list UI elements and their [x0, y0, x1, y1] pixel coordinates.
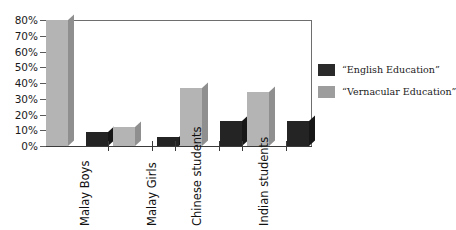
x-axis-label: Chinese students — [190, 126, 204, 226]
x-axis-label: Malay Girls — [145, 162, 159, 226]
x-tick-mark — [286, 141, 287, 151]
bar-vernacular-malay-boys — [46, 20, 68, 146]
bar-english-malay-boys — [86, 132, 108, 146]
x-tick-mark — [242, 141, 243, 151]
bar-front-face — [287, 121, 309, 146]
bar-front-face — [46, 20, 68, 146]
x-tick-mark — [219, 141, 220, 151]
legend-item-english-education: “English Education” — [318, 62, 451, 84]
legend-item-vernacular-education: “Vernacular Education” — [318, 84, 451, 106]
x-tick-mark — [108, 141, 109, 151]
bar-front-face — [220, 121, 242, 146]
legend-label: “Vernacular Education” — [342, 84, 456, 99]
legend-label: “English Education” — [342, 62, 440, 77]
bar-english-indian-students — [287, 121, 309, 146]
bar-front-face — [86, 132, 108, 146]
bar-vernacular-malay-girls — [113, 127, 135, 146]
bar-side-face — [309, 115, 315, 146]
bar-english-chinese-students — [220, 121, 242, 146]
bar-side-face — [135, 122, 141, 146]
chart-legend: “English Education” “Vernacular Educatio… — [318, 62, 451, 106]
x-axis-label: Indian students — [257, 137, 271, 226]
bar-side-face — [68, 15, 74, 146]
bar-front-face — [113, 127, 135, 146]
legend-swatch-icon — [318, 86, 335, 98]
x-tick-mark — [175, 141, 176, 151]
x-tick-mark — [152, 141, 153, 151]
x-axis-label: Malay Boys — [78, 161, 92, 226]
legend-swatch-icon — [318, 64, 335, 76]
